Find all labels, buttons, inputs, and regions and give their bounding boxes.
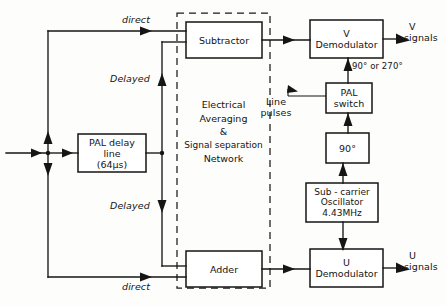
line-pulses-label-line-0: Line — [256, 97, 296, 108]
phase-select-label: 90° or 270° — [352, 61, 403, 71]
delayed-bottom-label: Delayed — [110, 200, 150, 211]
pal-switch-box[interactable] — [326, 83, 372, 113]
u-demodulator-box[interactable] — [310, 249, 383, 287]
direct-top-label: direct — [122, 14, 150, 25]
sub-carrier-oscillator-box[interactable] — [306, 183, 378, 222]
v-signals-label: V signals — [404, 22, 444, 43]
junction-down-arrow-head — [44, 163, 53, 176]
v-demodulator-box[interactable] — [310, 20, 383, 58]
delayed-up-arrow-head — [158, 73, 167, 86]
phase90-out-arrow-head — [344, 113, 353, 126]
u-signals-label-line-1: signals — [404, 262, 444, 273]
line-pulses-arrow-head — [287, 85, 298, 93]
direct-bottom-label: direct — [122, 281, 150, 292]
v-signals-label-line-1: signals — [404, 33, 444, 44]
oscillator-up-arrow-head — [339, 163, 348, 176]
u-signals-label-line-0: U — [404, 251, 444, 262]
line-pulses-label-line-1: pulses — [256, 108, 296, 119]
dashed-region-label-line-3: Signal separation — [173, 139, 274, 153]
junction-up-arrow-head — [44, 131, 53, 144]
u-signals-label: U signals — [404, 251, 444, 272]
delay-line-input-arrow-head — [62, 149, 73, 158]
adder-out-arrow-head — [283, 265, 295, 274]
input-arrow-head — [31, 149, 42, 158]
pal-decoder-diagram: Subtractor Adder PAL delay line (64μs) V… — [0, 0, 446, 306]
adder-box[interactable] — [186, 251, 262, 287]
pal-delay-line-box[interactable] — [78, 134, 146, 172]
top-direct-arrow-head — [140, 27, 152, 36]
phase-shifter-90-box[interactable] — [326, 133, 369, 163]
line-pulses-label: Line pulses — [256, 97, 296, 118]
subtractor-box[interactable] — [186, 22, 262, 58]
delayed-down-arrow-head — [158, 200, 167, 213]
dashed-region-label-line-2: & — [173, 125, 274, 139]
v-signals-label-line-0: V — [404, 22, 444, 33]
subtractor-out-arrow-head — [283, 36, 295, 45]
dashed-region-label-line-4: Network — [173, 152, 274, 166]
delayed-top-label: Delayed — [110, 73, 150, 84]
